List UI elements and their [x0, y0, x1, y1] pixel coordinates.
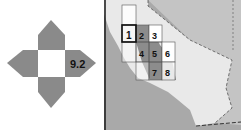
cell-label-5: 5 [152, 49, 157, 59]
cell-label-6: 6 [165, 49, 170, 59]
cell-label-7: 7 [152, 68, 157, 78]
arm-down [38, 77, 65, 108]
arm-left [7, 50, 38, 77]
cell-label-2: 2 [139, 31, 144, 41]
center-square [38, 50, 65, 77]
cell-label-8: 8 [165, 68, 170, 78]
grid-cell-row3-a[interactable] [136, 62, 149, 80]
tile-direction-diagram: 9.2 [0, 0, 104, 130]
cell-label-4: 4 [139, 49, 144, 59]
arm-up [38, 20, 65, 50]
cell-label-3: 3 [152, 31, 157, 41]
grid-cell-top[interactable] [122, 5, 136, 25]
california-map: 1 2 3 4 5 6 7 8 [104, 0, 241, 130]
tile-label: 9.2 [70, 58, 85, 70]
grid-cell-row2-a[interactable] [122, 42, 136, 62]
cell-label-1: 1 [126, 30, 132, 41]
